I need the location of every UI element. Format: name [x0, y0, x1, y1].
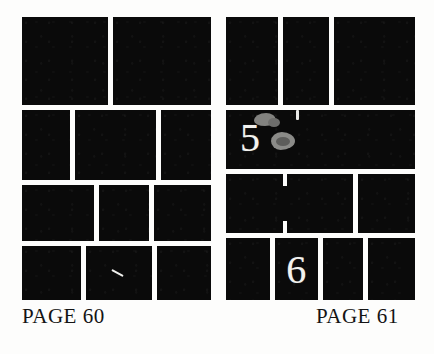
gutter-notch — [283, 221, 287, 233]
layout-block — [22, 110, 70, 180]
grid-row: 5 — [226, 110, 415, 169]
layout-block — [22, 185, 94, 241]
grid-row — [22, 17, 211, 105]
layout-block — [368, 238, 415, 300]
layout-block — [113, 17, 211, 105]
white-tick-mark — [296, 110, 299, 120]
grid-row — [226, 174, 415, 233]
layout-block — [157, 246, 211, 300]
page-numeral-six: 6 — [286, 250, 306, 290]
layout-grid-right: 5 6 — [226, 17, 415, 300]
layout-block — [99, 185, 149, 241]
page-caption-left: PAGE 60 — [22, 306, 105, 327]
layout-block — [358, 174, 415, 233]
gray-smudge-icon — [271, 132, 295, 150]
layout-block — [22, 17, 108, 105]
layout-block-numbered: 5 — [226, 110, 415, 169]
layout-block — [75, 110, 156, 180]
layout-block — [226, 174, 353, 233]
grid-row — [22, 185, 211, 241]
page-thumbnail-right: 5 6 — [226, 17, 415, 300]
scratch-mark — [112, 269, 124, 277]
layout-block — [283, 17, 330, 105]
layout-block — [86, 246, 152, 300]
grid-row — [22, 110, 211, 180]
scanned-page-spread: 5 6 — [0, 0, 434, 354]
layout-grid-left — [22, 17, 211, 300]
page-caption-right: PAGE 61 — [316, 306, 399, 327]
layout-block — [334, 17, 415, 105]
gray-smudge-icon — [268, 118, 280, 127]
layout-block — [226, 17, 278, 105]
gutter-notch — [283, 174, 287, 186]
page-thumbnail-left — [22, 17, 211, 300]
grid-row — [22, 246, 211, 300]
layout-block — [22, 246, 81, 300]
layout-block — [161, 110, 211, 180]
layout-block-numbered: 6 — [275, 238, 319, 300]
grid-row: 6 — [226, 238, 415, 300]
layout-block — [154, 185, 211, 241]
layout-block — [226, 238, 270, 300]
page-numeral-five: 5 — [240, 118, 260, 158]
grid-row — [226, 17, 415, 105]
layout-block — [323, 238, 363, 300]
